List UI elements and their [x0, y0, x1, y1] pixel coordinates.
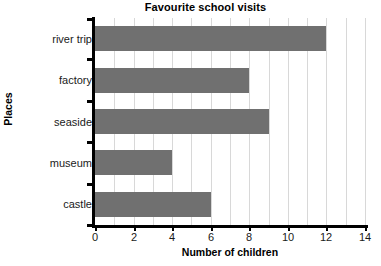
bar: [95, 109, 269, 134]
y-tick-label: river trip: [52, 33, 92, 45]
bar: [95, 26, 326, 51]
x-tick-label: 14: [350, 231, 380, 243]
gridline: [346, 18, 347, 225]
chart-title: Favourite school visits: [0, 1, 381, 13]
bar: [95, 150, 172, 175]
y-tick-label: castle: [63, 198, 92, 210]
y-axis-title: Places: [2, 74, 14, 144]
gridline: [365, 18, 366, 225]
y-axis-tick: [87, 224, 93, 227]
x-tick-label: 4: [157, 231, 187, 243]
x-tick-label: 12: [311, 231, 341, 243]
y-axis-tick: [87, 100, 93, 103]
bar: [95, 192, 211, 217]
x-tick-label: 0: [80, 231, 110, 243]
y-axis-tick: [87, 141, 93, 144]
x-tick-label: 8: [234, 231, 264, 243]
x-tick-label: 10: [273, 231, 303, 243]
bar-chart: Favourite school visits Places Number of…: [0, 0, 381, 266]
x-tick-label: 2: [119, 231, 149, 243]
y-tick-label: museum: [50, 157, 92, 169]
bar: [95, 68, 249, 93]
y-axis-tick: [87, 58, 93, 61]
y-tick-label: factory: [59, 74, 92, 86]
y-axis-tick: [87, 18, 93, 21]
y-axis-tick: [87, 183, 93, 186]
x-tick-label: 6: [196, 231, 226, 243]
x-axis-title: Number of children: [95, 246, 365, 258]
y-tick-label: seaside: [54, 116, 92, 128]
gridline: [326, 18, 327, 225]
